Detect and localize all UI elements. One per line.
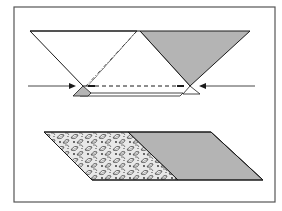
diagram-figure xyxy=(0,0,282,211)
diagram-canvas xyxy=(0,0,282,211)
fabric-strip xyxy=(80,93,183,96)
